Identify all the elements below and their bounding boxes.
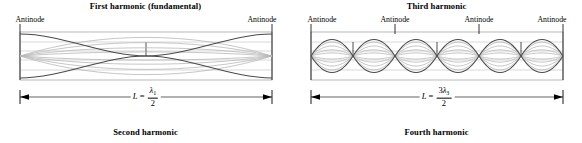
- wave-graphic-first-harmonic: [0, 0, 291, 143]
- formula-lambda-subscript: 1: [153, 90, 156, 96]
- standing-wave-figure: First harmonic (fundamental) Antinode An…: [0, 0, 582, 143]
- formula-L: L: [422, 91, 427, 101]
- formula-numerator: 3λ3: [436, 85, 451, 99]
- formula-equals: =: [140, 91, 145, 101]
- panel-caption: Fourth harmonic: [291, 127, 582, 138]
- formula-denominator: 2: [148, 99, 159, 108]
- formula-fraction: λ1 2: [148, 85, 159, 108]
- formula-equals: =: [429, 91, 434, 101]
- formula-numerator: λ1: [148, 85, 159, 99]
- panel-caption: Second harmonic: [0, 127, 291, 138]
- formula-denominator: 2: [436, 99, 451, 108]
- dimension-formula-third: L = 3λ3 2: [420, 86, 455, 109]
- panel-third-harmonic: Third harmonic Antinode Antinode Antinod…: [291, 0, 582, 143]
- formula-lambda-subscript: 3: [446, 90, 449, 96]
- wave-graphic-third-harmonic: [291, 0, 582, 143]
- formula-L: L: [133, 91, 138, 101]
- panel-first-harmonic: First harmonic (fundamental) Antinode An…: [0, 0, 291, 143]
- dimension-formula-first: L = λ1 2: [131, 86, 161, 109]
- formula-fraction: 3λ3 2: [436, 85, 451, 108]
